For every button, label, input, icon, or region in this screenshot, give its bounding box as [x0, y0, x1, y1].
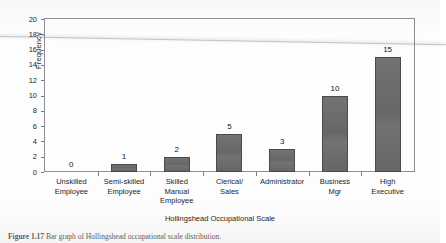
- bar-group: 1: [98, 19, 151, 172]
- figure-caption-text: Bar graph of Hollingshead occupational s…: [46, 232, 221, 241]
- x-axis-tick-mark: [309, 172, 310, 176]
- y-axis-tick-label: 2: [33, 152, 37, 161]
- x-axis-title: Hollingshead Occupational Scale: [0, 214, 440, 223]
- x-axis-category-label: HighExecutive: [355, 177, 420, 196]
- y-axis-tick-label: 8: [33, 106, 37, 115]
- y-axis-tick-mark: [41, 172, 44, 173]
- bar-group: 0: [45, 19, 98, 172]
- y-axis-tick-label: 4: [33, 137, 37, 146]
- y-axis-tick-label: 10: [29, 91, 37, 100]
- bar-value-label: 15: [383, 45, 392, 54]
- figure-caption-label: Figure 1.17: [8, 232, 44, 241]
- y-axis-tick-label: 16: [29, 45, 37, 54]
- bar-value-label: 10: [330, 84, 339, 93]
- bar[interactable]: [111, 164, 137, 172]
- bar-group: 3: [256, 19, 309, 172]
- y-axis-tick-label: 20: [29, 15, 37, 24]
- bar-value-label: 0: [69, 160, 73, 169]
- bar[interactable]: [375, 57, 401, 172]
- bar-value-label: 5: [227, 122, 231, 131]
- x-axis-category-label-line: Sales: [197, 187, 262, 197]
- bar-value-label: 1: [122, 152, 126, 161]
- bar-group: 2: [150, 19, 203, 172]
- x-axis-tick-mark: [256, 172, 257, 176]
- y-axis-tick-label: 6: [33, 122, 37, 131]
- x-axis-tick-mark: [98, 172, 99, 176]
- x-axis-tick-mark: [150, 172, 151, 176]
- figure-caption: Figure 1.17 Bar graph of Hollingshead oc…: [8, 232, 432, 241]
- plot-area: 012531015: [45, 19, 414, 172]
- bar-group: 15: [361, 19, 414, 172]
- x-axis-tick-mark: [203, 172, 204, 176]
- x-axis-category-label-line: Executive: [355, 187, 420, 197]
- bar-value-label: 3: [280, 137, 284, 146]
- y-axis-tick-label: 12: [29, 76, 37, 85]
- bar[interactable]: [216, 134, 242, 172]
- y-axis-tick-label: 18: [29, 30, 37, 39]
- bar-value-label: 2: [175, 145, 179, 154]
- y-axis-tick-label: 0: [33, 168, 37, 177]
- x-axis-tick-mark: [361, 172, 362, 176]
- y-axis-tick-label: 14: [29, 60, 37, 69]
- bar[interactable]: [322, 96, 348, 173]
- x-axis-category-label-line: Employee: [144, 196, 209, 206]
- bar-group: 5: [203, 19, 256, 172]
- x-axis-category-label-line: High: [355, 177, 420, 187]
- bar-group: 10: [309, 19, 362, 172]
- bar[interactable]: [164, 157, 190, 172]
- bar[interactable]: [269, 149, 295, 172]
